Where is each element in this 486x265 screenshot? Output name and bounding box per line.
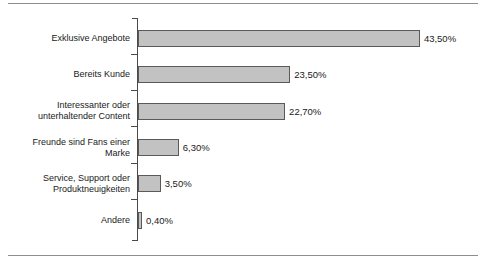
category-label: Bereits Kunde xyxy=(0,69,130,80)
category-label: Interessanter oder unterhaltender Conten… xyxy=(0,100,130,122)
axis-tick-5 xyxy=(131,199,138,200)
value-label: 43,50% xyxy=(424,33,456,44)
bar-series-0 xyxy=(138,30,420,47)
value-label: 6,30% xyxy=(183,142,210,153)
value-label: 23,50% xyxy=(294,69,326,80)
category-axis-line xyxy=(137,18,138,240)
axis-tick-1 xyxy=(131,54,138,55)
value-label: 0,40% xyxy=(146,215,173,226)
category-label: Service, Support oder Produktneuigkeiten xyxy=(0,173,130,195)
bar-series-5 xyxy=(138,212,142,229)
axis-tick-4 xyxy=(131,163,138,164)
value-label: 3,50% xyxy=(165,178,192,189)
axis-tick-2 xyxy=(131,90,138,91)
bar-chart-plot-area: Exklusive Angebote 43,50% Bereits Kunde … xyxy=(0,0,486,265)
axis-cap-top xyxy=(132,18,138,19)
category-label: Andere xyxy=(0,215,130,226)
category-label: Exklusive Angebote xyxy=(0,33,130,44)
bar-series-1 xyxy=(138,66,290,83)
bar-series-3 xyxy=(138,139,179,156)
value-label: 22,70% xyxy=(289,106,321,117)
axis-cap-bottom xyxy=(132,240,138,241)
bar-series-2 xyxy=(138,103,285,120)
bar-series-4 xyxy=(138,175,161,192)
chart-figure: Exklusive Angebote 43,50% Bereits Kunde … xyxy=(0,0,486,265)
category-label: Freunde sind Fans einer Marke xyxy=(0,137,130,159)
axis-tick-3 xyxy=(131,126,138,127)
